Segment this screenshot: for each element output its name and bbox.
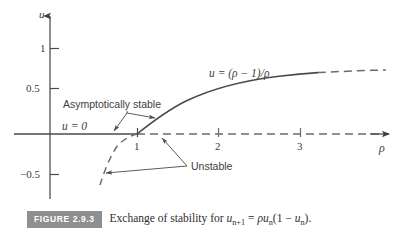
x-tick-label-3: 3 xyxy=(297,141,303,152)
plot-canvas xyxy=(0,0,401,241)
zero-branch-label: u = 0 xyxy=(62,121,87,133)
leader-asymptotically-stable-to-axis xyxy=(114,113,127,131)
curve-dashed-continuation xyxy=(318,70,386,73)
figure-container: u ρ 1 0.5 −0.5 1 2 3 u = (ρ − 1)/ρ u = 0… xyxy=(0,0,401,241)
curve-unstable-lower-branch xyxy=(100,134,137,185)
figure-caption: FIGURE 2.9.3 Exchange of stability for u… xyxy=(27,211,311,228)
caption-prefix: Exchange of stability for xyxy=(110,212,224,224)
curve-equation-label: u = (ρ − 1)/ρ xyxy=(209,68,269,80)
unstable-label: Unstable xyxy=(191,161,232,172)
asymptotically-stable-label: Asymptotically stable xyxy=(63,99,161,110)
x-axis-label: ρ xyxy=(379,142,385,154)
curve-stable-branch xyxy=(137,73,318,134)
y-tick-label-0-5: 0.5 xyxy=(26,83,40,94)
figure-caption-text: Exchange of stability for un+1 = ρun(1 −… xyxy=(110,212,312,227)
y-axis-label: u xyxy=(39,9,45,20)
caption-equation: un+1 = ρun(1 − un). xyxy=(226,212,311,224)
x-tick-label-1: 1 xyxy=(134,141,140,152)
figure-number-badge: FIGURE 2.9.3 xyxy=(27,211,102,228)
y-tick-label-minus-0-5: −0.5 xyxy=(20,169,40,180)
leader-unstable-to-axis xyxy=(162,138,187,166)
x-tick-label-2: 2 xyxy=(215,141,221,152)
leader-asymptotically-stable-to-curve xyxy=(127,113,155,118)
leader-unstable-to-lower-curve xyxy=(106,166,187,173)
y-tick-label-1: 1 xyxy=(40,43,46,54)
